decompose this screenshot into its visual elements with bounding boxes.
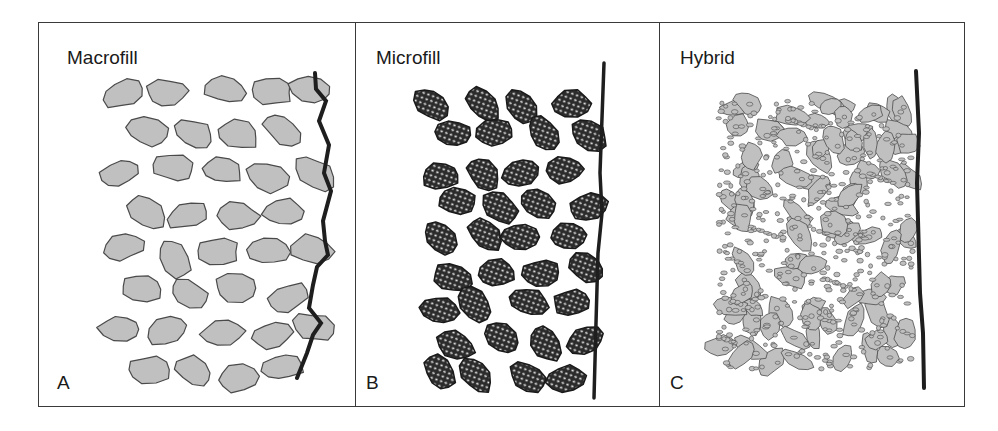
microfill-illustration bbox=[356, 23, 660, 408]
hybrid-illustration bbox=[660, 23, 965, 408]
macrofill-illustration bbox=[39, 23, 355, 408]
panel-hybrid: Hybrid C bbox=[659, 23, 964, 406]
panel-letter: C bbox=[670, 372, 684, 394]
panel-title: Macrofill bbox=[67, 47, 138, 69]
panel-letter: B bbox=[366, 372, 379, 394]
composite-filler-figure: Macrofill A Microfill B Hybrid C bbox=[38, 22, 965, 407]
panel-title: Hybrid bbox=[680, 47, 735, 69]
panel-macrofill: Macrofill A bbox=[39, 23, 355, 406]
panel-title: Microfill bbox=[376, 47, 440, 69]
panel-microfill: Microfill B bbox=[355, 23, 659, 406]
panel-letter: A bbox=[57, 372, 70, 394]
